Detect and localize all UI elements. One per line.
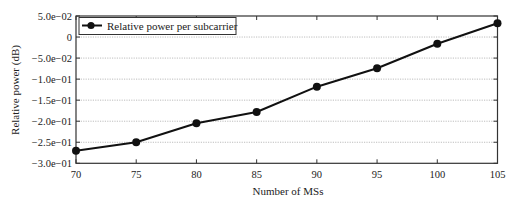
x-tick-label: 100 (429, 169, 445, 180)
data-point-marker (373, 64, 381, 72)
data-series (72, 19, 502, 155)
data-point-marker (132, 138, 140, 146)
x-axis-title: Number of MSs (253, 185, 324, 197)
y-tick-label: 0 (67, 32, 72, 43)
data-point-marker (192, 119, 200, 127)
legend-entry-label: Relative power per subcarrier (107, 20, 238, 32)
x-tick-label: 95 (372, 169, 383, 180)
y-tick-label: −2.0e−01 (32, 116, 72, 127)
y-tick-label: 5.0e−02 (38, 11, 72, 22)
data-point-marker (313, 83, 321, 91)
data-point-marker (72, 147, 80, 155)
y-tick-label: −2.5e−01 (32, 137, 72, 148)
data-point-marker (433, 40, 441, 48)
x-tick-label: 85 (251, 169, 262, 180)
y-tick-label: −5.0e−02 (32, 53, 72, 64)
y-tick-label: −1.5e−01 (32, 95, 72, 106)
x-tick-label: 90 (312, 169, 323, 180)
y-gridlines (76, 37, 498, 142)
y-tick-label: −3.0e−01 (32, 158, 72, 169)
line-chart: 5.0e−020−5.0e−02−1.0e−01−1.5e−01−2.0e−01… (0, 0, 516, 204)
x-tick-label: 70 (71, 169, 82, 180)
y-axis-title: Relative power (dB) (9, 45, 22, 135)
y-tick-label: −1.0e−01 (32, 74, 72, 85)
legend-marker-icon (87, 22, 94, 29)
data-point-marker (494, 19, 502, 27)
legend: Relative power per subcarrier (79, 18, 238, 35)
data-point-marker (253, 108, 261, 116)
x-tick-label: 105 (490, 169, 506, 180)
x-tick-label: 75 (131, 169, 142, 180)
x-tick-label: 80 (191, 169, 202, 180)
